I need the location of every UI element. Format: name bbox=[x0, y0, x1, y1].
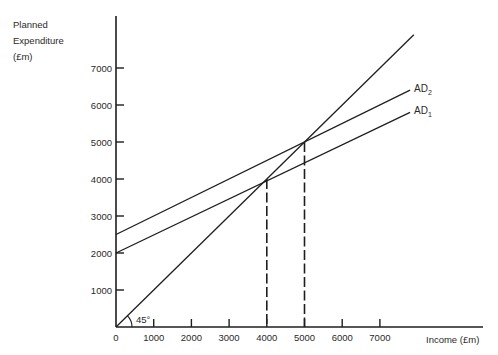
y-tick-label: 4000 bbox=[91, 174, 112, 185]
x-tick-label: 5000 bbox=[294, 332, 315, 343]
x-axis-label: Income (£m) bbox=[426, 334, 479, 345]
y-tick-label: 5000 bbox=[91, 137, 112, 148]
y-tick-label: 3000 bbox=[91, 211, 112, 222]
x-tick-label: 6000 bbox=[332, 332, 353, 343]
y-tick-label: 6000 bbox=[91, 100, 112, 111]
ad1-label: AD1 bbox=[414, 105, 432, 118]
45-degree-line bbox=[116, 35, 414, 327]
axes bbox=[116, 16, 483, 327]
x-tick-label: 3000 bbox=[219, 332, 240, 343]
angle-arc bbox=[127, 316, 132, 327]
x-tick-label: 2000 bbox=[181, 332, 202, 343]
ad2-label-subscript: 2 bbox=[428, 89, 432, 96]
keynesian-cross-chart: 1000200030004000500060007000010002000300… bbox=[0, 0, 498, 355]
x-tick-label: 1000 bbox=[143, 332, 164, 343]
x-tick-label: 7000 bbox=[369, 332, 390, 343]
ad1-label-subscript: 1 bbox=[428, 111, 432, 118]
angle-label: 45° bbox=[136, 314, 151, 325]
y-tick-label: 2000 bbox=[91, 248, 112, 259]
y-tick-label: 7000 bbox=[91, 63, 112, 74]
annotations: AD2AD145° bbox=[127, 83, 432, 327]
x-tick-label: 0 bbox=[113, 332, 118, 343]
y-tick-label: 1000 bbox=[91, 285, 112, 296]
x-tick-label: 4000 bbox=[256, 332, 277, 343]
ad1-line bbox=[116, 112, 410, 253]
ad2-line bbox=[116, 90, 410, 234]
chart-lines bbox=[116, 35, 414, 327]
ad2-label: AD2 bbox=[414, 83, 432, 96]
